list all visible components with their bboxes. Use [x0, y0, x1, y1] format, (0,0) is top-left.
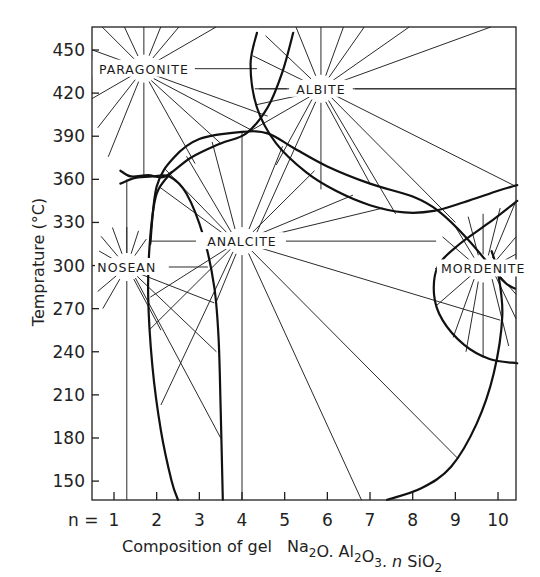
tie-line — [98, 276, 116, 291]
tie-line — [326, 27, 344, 76]
tie-line — [253, 171, 315, 232]
tie-line — [139, 274, 214, 303]
boundary-albite-paragonite-boundary — [120, 33, 293, 178]
tie-line — [103, 279, 120, 308]
tie-line — [296, 27, 316, 76]
tie-line — [265, 36, 311, 79]
boundary-analcite-left-boundary — [148, 172, 178, 500]
tie-line — [108, 82, 138, 157]
y-tick-label: 300 — [53, 256, 85, 276]
y-axis-title: Temprature (°C) — [29, 198, 48, 327]
y-tick-label: 240 — [53, 342, 85, 362]
tie-line — [332, 98, 456, 223]
tie-line — [161, 252, 233, 405]
x-tick-label: 7 — [365, 510, 376, 530]
tie-line — [492, 201, 516, 258]
tie-line — [149, 82, 195, 164]
x-tick-label: 4 — [237, 510, 248, 530]
phase-diagram-chart: 150180210240270300330360390420450 123456… — [0, 0, 540, 577]
phase-label-nosean: NOSEAN — [97, 260, 156, 275]
y-tick-label: 390 — [53, 126, 85, 146]
tie-line — [495, 237, 516, 262]
x-axis-ticks: 12345678910 — [109, 492, 509, 530]
x-tick-label: 5 — [279, 510, 290, 530]
x-tick-label: 6 — [322, 510, 333, 530]
tie-line — [252, 251, 458, 458]
x-tick-label: 2 — [151, 510, 162, 530]
x-tick-label: 9 — [450, 510, 461, 530]
tie-line — [159, 187, 229, 238]
tie-line — [334, 95, 516, 187]
tie-line — [154, 79, 255, 132]
boundary-nosean-paragonite-lens — [120, 175, 222, 500]
y-tick-label: 270 — [53, 299, 85, 319]
y-tick-label: 360 — [53, 169, 85, 189]
tie-line — [187, 156, 232, 232]
tie-line — [466, 282, 478, 352]
y-tick-label: 420 — [53, 83, 85, 103]
tie-line — [332, 27, 409, 81]
phase-labels: PARAGONITEALBITEANALCITENOSEANMORDENITE — [93, 60, 529, 277]
x-axis-title: Composition of gel Na2O. Al2O3. n SiO2 — [122, 537, 442, 575]
tie-line — [131, 231, 138, 254]
tie-line — [112, 228, 122, 254]
phase-label-mordenite: MORDENITE — [441, 261, 525, 276]
tie-line — [249, 253, 362, 500]
x-tick-label: 8 — [407, 510, 418, 530]
boundary-analcite-mordenite-lower — [387, 251, 502, 500]
tie-line — [329, 101, 396, 214]
phase-label-paragonite: PARAGONITE — [99, 62, 189, 77]
y-tick-label: 210 — [53, 385, 85, 405]
x-axis-title-prefix: Composition of gel — [122, 537, 272, 556]
tie-line — [102, 27, 134, 59]
x-tick-label: 3 — [194, 510, 205, 530]
tie-line — [135, 239, 146, 255]
x-tick-label: 10 — [487, 510, 509, 530]
y-tick-label: 150 — [53, 471, 85, 491]
x-axis-formula: Na2O. Al2O3. n SiO2 — [287, 537, 442, 575]
tie-line — [443, 237, 471, 262]
x-tick-label: 1 — [109, 510, 120, 530]
y-tick-label: 180 — [53, 428, 85, 448]
y-tick-label: 450 — [53, 40, 85, 60]
tie-line — [92, 76, 132, 99]
tie-line — [153, 27, 179, 58]
x-tick-prefix: n = — [68, 510, 98, 530]
tie-line — [334, 27, 491, 84]
tie-line — [156, 27, 216, 62]
tie-line — [151, 81, 220, 144]
phase-label-analcite: ANALCITE — [207, 234, 276, 249]
tie-line — [212, 142, 235, 229]
phase-label-albite: ALBITE — [296, 82, 345, 97]
y-tick-label: 330 — [53, 212, 85, 232]
